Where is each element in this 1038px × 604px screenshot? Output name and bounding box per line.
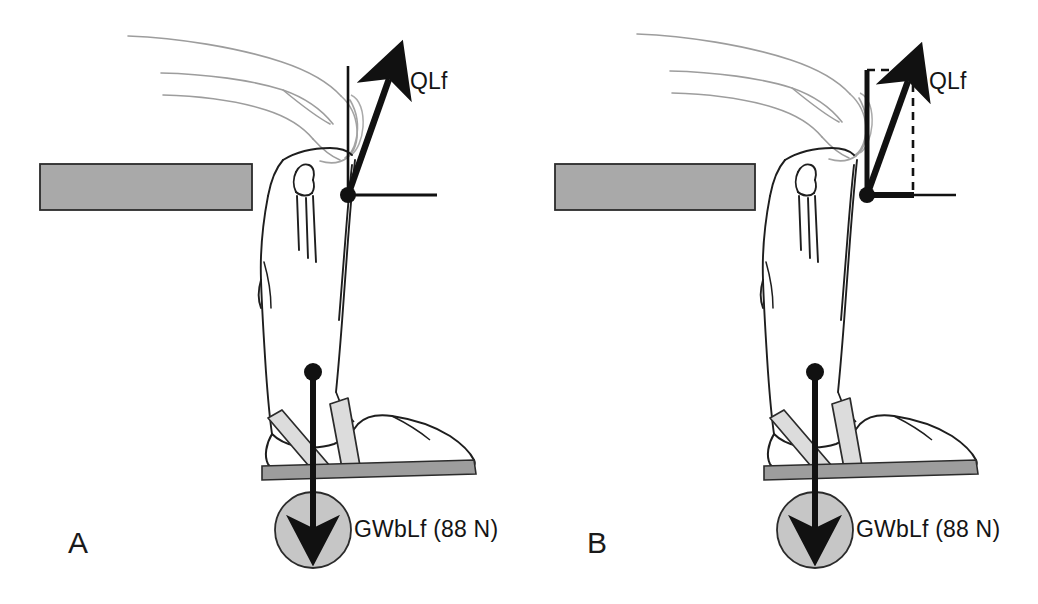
support-surface-rect [555, 164, 755, 210]
biomechanics-figure: QLf GWbLf (88 N) A [0, 0, 1038, 604]
qlf-label: QLf [410, 68, 448, 95]
knee-joint-outline [320, 96, 357, 163]
panel-b-label: B [587, 526, 608, 560]
panel-a-label: A [68, 526, 89, 560]
calf-contour [766, 262, 773, 308]
gwblf-origin-dot [304, 363, 322, 381]
thigh-outline [128, 36, 341, 160]
calf-contour [264, 262, 271, 308]
qlf-origin-dot [340, 187, 356, 203]
gwblf-label: GWbLf (88 N) [354, 516, 498, 543]
tibia-outline [770, 148, 854, 262]
support-surface-rect [40, 164, 252, 210]
qlf-origin-dot [859, 187, 875, 203]
tibia-outline [268, 148, 352, 262]
qlf-label: QLf [929, 68, 967, 95]
gwblf-label: GWbLf (88 N) [856, 516, 1000, 543]
qlf-vector-arrow [867, 81, 908, 195]
thigh-outline [637, 34, 850, 158]
panel-b: QLf GWbLf (88 N) B [519, 0, 1038, 604]
panel-a: QLf GWbLf (88 N) A [0, 0, 519, 604]
gwblf-origin-dot [806, 363, 824, 381]
